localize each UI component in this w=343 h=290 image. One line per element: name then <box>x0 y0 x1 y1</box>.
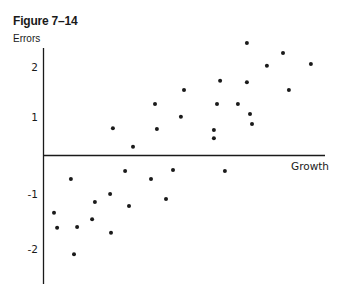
data-point <box>155 127 159 131</box>
data-point <box>75 225 79 229</box>
data-point <box>287 88 291 92</box>
data-point <box>212 136 216 140</box>
data-point <box>109 231 113 235</box>
data-point <box>69 177 73 181</box>
data-point <box>245 80 249 84</box>
data-point <box>127 204 131 208</box>
data-point <box>153 102 157 106</box>
data-point <box>248 112 252 116</box>
data-point <box>52 211 56 215</box>
data-point <box>179 115 183 119</box>
data-point <box>55 226 59 230</box>
data-point <box>72 252 76 256</box>
data-point <box>223 169 227 173</box>
data-point <box>111 126 115 130</box>
data-point <box>182 88 186 92</box>
data-points <box>52 41 313 256</box>
data-point <box>93 200 97 204</box>
scatter-plot <box>0 0 343 290</box>
data-point <box>250 122 254 126</box>
data-point <box>164 197 168 201</box>
data-point <box>90 217 94 221</box>
data-point <box>212 128 216 132</box>
data-point <box>265 64 269 68</box>
data-point <box>149 177 153 181</box>
data-point <box>123 169 127 173</box>
data-point <box>236 102 240 106</box>
data-point <box>215 102 219 106</box>
data-point <box>171 168 175 172</box>
data-point <box>245 41 249 45</box>
data-point <box>131 145 135 149</box>
data-point <box>218 79 222 83</box>
data-point <box>281 51 285 55</box>
data-point <box>108 192 112 196</box>
data-point <box>309 62 313 66</box>
